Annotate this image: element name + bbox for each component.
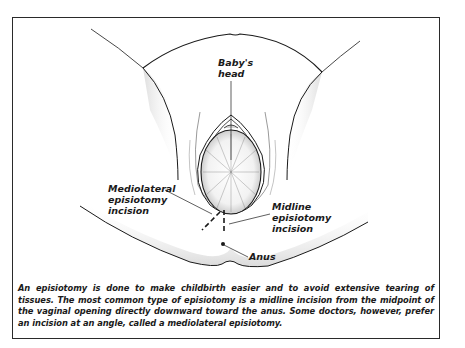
label-anus: Anus: [249, 251, 276, 262]
label-line: head: [218, 68, 253, 79]
left-thigh-line: [91, 29, 143, 68]
right-thigh-line: [322, 41, 360, 72]
label-line: Baby's: [218, 57, 253, 68]
label-line: incision: [108, 205, 175, 216]
label-line: episiotomy: [272, 212, 331, 223]
label-babys-head: Baby's head: [218, 57, 253, 79]
midline-pointer: [229, 214, 270, 224]
label-line: Anus: [249, 251, 276, 262]
mediolateral-incision: [202, 212, 220, 230]
label-mediolateral: Mediolateral episiotomy incision: [108, 183, 175, 216]
label-line: episiotomy: [108, 194, 175, 205]
label-line: Midline: [272, 201, 331, 212]
label-line: Mediolateral: [108, 183, 175, 194]
figure-caption: An episiotomy is done to make childbirth…: [18, 283, 434, 329]
label-line: incision: [272, 223, 331, 234]
label-midline: Midline episiotomy incision: [272, 201, 331, 234]
